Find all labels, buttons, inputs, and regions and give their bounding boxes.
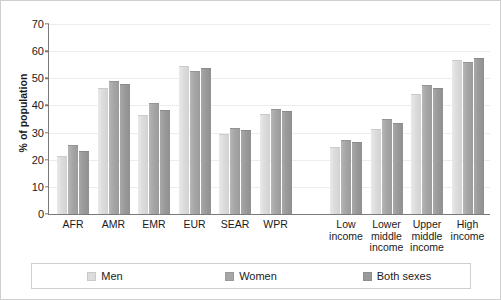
bar-men <box>57 156 67 214</box>
y-tick-label: 10 <box>32 181 44 193</box>
y-tick-label: 50 <box>32 72 44 84</box>
y-tick-label: 70 <box>32 18 44 30</box>
bar-men <box>98 88 108 214</box>
y-tick-mark <box>45 105 49 106</box>
x-axis-label: High income <box>451 219 485 242</box>
bar-group <box>450 24 486 214</box>
bar-both-sexes <box>79 151 89 214</box>
bar-women <box>68 145 78 214</box>
x-axis-label: EMR <box>142 219 165 231</box>
legend-label: Both sexes <box>377 270 431 282</box>
bar-group <box>217 24 253 214</box>
x-axis-label: WPR <box>263 219 288 231</box>
bar-women <box>382 119 392 214</box>
bar-men <box>371 129 381 214</box>
legend-item[interactable]: Men <box>32 270 178 282</box>
y-tick-label: 0 <box>38 208 44 220</box>
bar-group <box>96 24 132 214</box>
legend-item[interactable]: Women <box>178 270 324 282</box>
bar-both-sexes <box>241 130 251 214</box>
y-tick-mark <box>45 78 49 79</box>
x-axis-label: Lower middle income <box>370 219 404 254</box>
bar-women <box>149 103 159 214</box>
bar-both-sexes <box>120 84 130 214</box>
bar-women <box>341 140 351 214</box>
bar-group <box>55 24 91 214</box>
x-axis-label: SEAR <box>221 219 250 231</box>
bar-women <box>271 109 281 215</box>
bar-group <box>136 24 172 214</box>
x-axis-label: AMR <box>102 219 125 231</box>
bar-men <box>138 115 148 214</box>
bar-men <box>219 134 229 214</box>
chart-legend: MenWomenBoth sexes <box>31 263 471 289</box>
bar-both-sexes <box>352 142 362 214</box>
bar-women <box>109 81 119 214</box>
bar-women <box>422 85 432 214</box>
y-tick-label: 40 <box>32 99 44 111</box>
women-swatch <box>225 272 234 281</box>
bar-women <box>463 62 473 214</box>
plot-area: 010203040506070AFRAMREMREURSEARWPRLow in… <box>48 24 490 215</box>
bar-group <box>369 24 405 214</box>
bar-both-sexes <box>474 58 484 214</box>
y-tick-mark <box>45 159 49 160</box>
y-tick-label: 60 <box>32 45 44 57</box>
y-tick-label: 30 <box>32 127 44 139</box>
x-axis-label: Low income <box>329 219 363 242</box>
bar-group <box>409 24 445 214</box>
bar-men <box>330 147 340 215</box>
bar-group <box>328 24 364 214</box>
bar-both-sexes <box>160 110 170 214</box>
y-tick-mark <box>45 213 49 214</box>
bar-both-sexes <box>201 68 211 214</box>
bar-men <box>260 114 270 214</box>
both-sexes-swatch <box>363 272 372 281</box>
bar-group <box>258 24 294 214</box>
bar-chart-figure: % of population 010203040506070AFRAMREMR… <box>0 0 501 300</box>
bar-both-sexes <box>433 88 443 214</box>
y-axis-title: % of population <box>17 43 29 183</box>
bar-women <box>190 71 200 215</box>
x-axis-label: EUR <box>183 219 205 231</box>
x-axis-label: Upper middle income <box>410 219 444 254</box>
men-swatch <box>87 272 96 281</box>
bar-men <box>179 66 189 214</box>
y-tick-mark <box>45 132 49 133</box>
legend-label: Men <box>101 270 122 282</box>
y-tick-mark <box>45 50 49 51</box>
bar-men <box>411 94 421 214</box>
legend-item[interactable]: Both sexes <box>324 270 470 282</box>
bar-group <box>177 24 213 214</box>
bar-men <box>452 60 462 214</box>
y-tick-mark <box>45 186 49 187</box>
x-axis-label: AFR <box>63 219 84 231</box>
bar-both-sexes <box>393 123 403 214</box>
y-tick-mark <box>45 23 49 24</box>
bar-women <box>230 128 240 215</box>
legend-label: Women <box>239 270 277 282</box>
bar-both-sexes <box>282 111 292 214</box>
y-tick-label: 20 <box>32 154 44 166</box>
